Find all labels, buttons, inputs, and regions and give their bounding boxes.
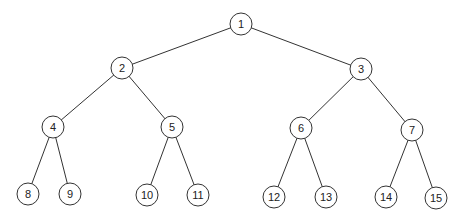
- tree-node-2: 2: [111, 57, 133, 79]
- node-label: 4: [50, 121, 56, 133]
- tree-nodes: 123456789101112131415: [17, 13, 447, 209]
- tree-node-9: 9: [59, 183, 81, 205]
- edge-2-5: [122, 68, 172, 127]
- node-label: 7: [409, 124, 415, 136]
- node-label: 12: [268, 191, 280, 203]
- node-label: 6: [298, 122, 304, 134]
- node-label: 1: [238, 18, 244, 30]
- tree-node-8: 8: [17, 183, 39, 205]
- tree-node-4: 4: [42, 116, 64, 138]
- tree-node-14: 14: [375, 186, 397, 208]
- tree-node-1: 1: [230, 13, 252, 35]
- tree-node-11: 11: [187, 184, 209, 206]
- edge-3-7: [361, 69, 412, 130]
- edge-3-6: [301, 69, 361, 128]
- tree-node-13: 13: [315, 186, 337, 208]
- edge-2-4: [53, 68, 122, 127]
- node-label: 13: [320, 191, 332, 203]
- node-label: 5: [169, 121, 175, 133]
- tree-node-5: 5: [161, 116, 183, 138]
- node-label: 11: [192, 189, 203, 201]
- tree-node-3: 3: [350, 58, 372, 80]
- edge-1-2: [122, 24, 241, 68]
- tree-edges: [28, 24, 436, 198]
- tree-node-12: 12: [263, 186, 285, 208]
- node-label: 15: [430, 192, 442, 204]
- node-label: 14: [380, 191, 392, 203]
- node-label: 10: [141, 189, 153, 201]
- edge-1-3: [241, 24, 361, 69]
- tree-node-10: 10: [136, 184, 158, 206]
- tree-node-7: 7: [401, 119, 423, 141]
- node-label: 3: [358, 63, 364, 75]
- node-label: 2: [119, 62, 125, 74]
- node-label: 8: [25, 188, 31, 200]
- tree-node-6: 6: [290, 117, 312, 139]
- node-label: 9: [67, 188, 73, 200]
- tree-node-15: 15: [425, 187, 447, 209]
- binary-tree-diagram: 123456789101112131415: [0, 0, 462, 221]
